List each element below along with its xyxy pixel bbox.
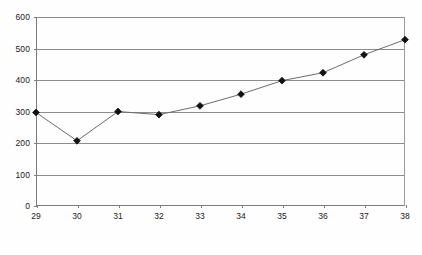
y-axis-tick-label: 500 <box>0 45 30 54</box>
x-axis-tick-label: 33 <box>185 212 215 221</box>
x-axis-tick-mark <box>78 205 79 208</box>
y-axis-tick-label: 100 <box>0 171 30 180</box>
gridline-horizontal <box>37 49 404 50</box>
y-axis-tick-mark <box>34 80 37 81</box>
x-axis-tick-mark <box>37 205 38 208</box>
gridline-horizontal <box>37 112 404 113</box>
gridline-horizontal <box>37 175 404 176</box>
y-axis-tick-label: 600 <box>0 13 30 22</box>
x-axis-tick-label: 38 <box>390 212 420 221</box>
x-axis-tick-mark <box>119 205 120 208</box>
y-axis-tick-label: 300 <box>0 108 30 117</box>
y-axis-tick-mark <box>34 112 37 113</box>
y-axis-tick-mark <box>34 49 37 50</box>
gridline-horizontal <box>37 143 404 144</box>
x-axis-tick-label: 30 <box>62 212 92 221</box>
x-axis-tick-mark <box>365 205 366 208</box>
x-axis-tick-mark <box>242 205 243 208</box>
x-axis-tick-label: 36 <box>308 212 338 221</box>
x-axis-tick-mark <box>283 205 284 208</box>
y-axis-tick-mark <box>34 17 37 18</box>
x-axis-tick-label: 35 <box>267 212 297 221</box>
y-axis-tick-mark <box>34 143 37 144</box>
line-chart: 010020030040050060029303132333435363738 <box>0 0 422 255</box>
x-axis-tick-mark <box>160 205 161 208</box>
x-axis-tick-mark <box>201 205 202 208</box>
x-axis-tick-mark <box>406 205 407 208</box>
x-axis-tick-label: 32 <box>144 212 174 221</box>
x-axis-tick-label: 29 <box>21 212 51 221</box>
y-axis-tick-label: 200 <box>0 139 30 148</box>
y-axis-tick-label: 0 <box>0 202 30 211</box>
x-axis-tick-label: 34 <box>226 212 256 221</box>
y-axis-tick-label: 400 <box>0 76 30 85</box>
gridline-horizontal <box>37 17 404 18</box>
plot-area <box>36 17 405 206</box>
y-axis-tick-mark <box>34 175 37 176</box>
x-axis-tick-label: 37 <box>349 212 379 221</box>
gridline-horizontal <box>37 80 404 81</box>
x-axis-tick-mark <box>324 205 325 208</box>
x-axis-tick-label: 31 <box>103 212 133 221</box>
